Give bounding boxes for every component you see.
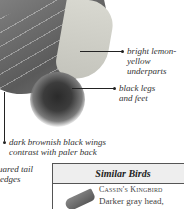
leader-line-legs — [72, 88, 114, 89]
similar-bird-name: Cassin's Kingbird — [99, 185, 163, 194]
bullet-dot — [113, 87, 116, 90]
annotation-line: bright lemon- — [127, 46, 184, 56]
bird-legs — [30, 72, 85, 127]
leader-line-wings — [4, 92, 5, 141]
similar-bird-image — [61, 188, 95, 208]
annotation-line: squared tail — [0, 164, 33, 174]
kingbird-thumbnail — [64, 188, 96, 209]
annotation-line: contrast with paler back — [9, 147, 106, 157]
annotation-legs: black legs and feet — [119, 83, 155, 103]
annotation-line: dark brownish black wings — [9, 137, 106, 147]
leader-line-underparts — [80, 51, 122, 52]
annotation-line: yellow underparts — [127, 56, 184, 76]
bullet-dot — [121, 50, 124, 53]
similar-birds-title: Similar Birds — [53, 164, 184, 184]
annotation-line: edges — [0, 174, 33, 184]
annotation-wings: dark brownish black wings contrast with … — [9, 137, 106, 157]
annotation-underparts: bright lemon- yellow underparts — [127, 46, 184, 76]
annotation-line: and feet — [119, 93, 155, 103]
bird-illustration — [0, 0, 120, 130]
annotation-tail: squared tail edges — [0, 164, 33, 184]
similar-bird-description: Darker gray head, — [99, 196, 164, 207]
similar-birds-box: Similar Birds Cassin's Kingbird Darker g… — [52, 163, 184, 209]
annotation-line: black legs — [119, 83, 155, 93]
bullet-dot — [3, 141, 6, 144]
